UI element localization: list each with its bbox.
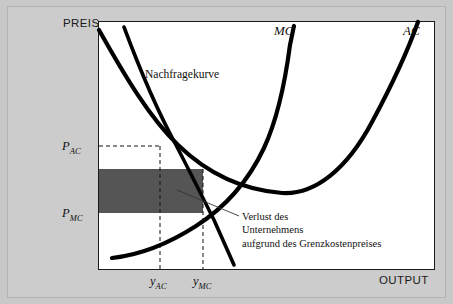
loss-annotation-line-1: Verlust des (242, 210, 381, 223)
price-mc-symbol: P (62, 206, 70, 220)
price-ac-label: PAC (62, 139, 81, 156)
price-mc-subscript: MC (70, 213, 83, 223)
loss-annotation-line-3: aufgrund des Grenzkostenpreises (242, 237, 381, 250)
demand-curve-label: Nachfragekurve (145, 68, 219, 81)
figure-root: PREIS OUTPUT MC AC Nachfragekurve PAC PM… (0, 0, 453, 304)
mc-curve-label: MC (274, 24, 294, 39)
output-mc-subscript: MC (199, 281, 212, 291)
output-ac-subscript: AC (156, 281, 167, 291)
price-ac-symbol: P (62, 139, 70, 153)
output-mc-label: yMC (193, 274, 212, 291)
price-mc-label: PMC (62, 206, 83, 223)
output-ac-label: yAC (150, 274, 167, 291)
ac-curve-label: AC (403, 24, 420, 39)
loss-annotation-line-2: Unternehmens (242, 223, 381, 236)
x-axis-title: OUTPUT (379, 274, 429, 287)
y-axis-title: PREIS (63, 17, 100, 30)
loss-annotation: Verlust des Unternehmens aufgrund des Gr… (242, 210, 381, 250)
price-ac-subscript: AC (70, 146, 81, 156)
